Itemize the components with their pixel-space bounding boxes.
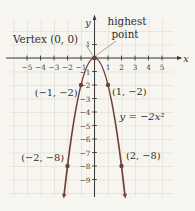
highest-point-annotation-line1: highest [107,15,147,27]
coord-label-minus1-minus2: (−1, −2) [35,87,78,98]
x-tick-label: −4 [35,63,46,72]
y-tick-label: −8 [80,162,91,171]
x-tick-label: −3 [49,63,60,72]
y-tick-label: −6 [80,135,91,144]
x-tick-label: 3 [133,63,138,72]
point-1-minus2 [106,83,110,87]
coord-label-2-minus8: (2, −8) [126,150,161,161]
highest-point-annotation-line2: point [111,28,139,40]
vertex-annotation: Vertex (0, 0) [12,33,78,45]
point-vertex-0-0 [92,56,97,61]
coord-label-1-minus2: (1, −2) [112,86,147,97]
y-tick-label: −4 [80,108,91,117]
graph-canvas: −5 −4 −3 −2 −1 1 2 3 4 5 1 −1 −2 −3 −4 −… [0,0,195,211]
y-tick-label: −3 [80,95,91,104]
y-tick-label: −5 [80,122,91,131]
y-tick-label: −9 [80,176,91,185]
point-2-minus8 [119,164,123,168]
x-tick-label: 5 [160,63,165,72]
x-tick-label: 2 [119,63,124,72]
x-tick-label: −2 [62,63,73,72]
x-tick-label: 1 [106,63,111,72]
point-minus1-minus2 [79,83,83,87]
x-axis-label: x [183,53,189,64]
equation-label: y = −2x² [119,111,165,122]
y-axis-label: y [84,17,91,28]
parabola-figure: −5 −4 −3 −2 −1 1 2 3 4 5 1 −1 −2 −3 −4 −… [0,0,195,211]
coord-label-minus2-minus8: (−2, −8) [21,152,64,163]
x-axis-arrow-icon [177,56,183,60]
x-tick-label: 4 [146,63,151,72]
x-tick-label: −5 [22,63,33,72]
y-tick-label: −7 [80,149,91,158]
grid-area [10,19,173,197]
point-minus2-minus8 [65,164,69,168]
y-axis-arrow-icon [93,15,97,21]
